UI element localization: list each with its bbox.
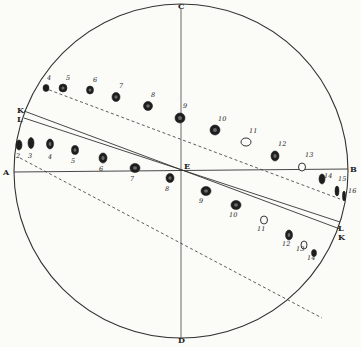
upper-sunspot-15: [335, 186, 339, 196]
lower-sunspot-penumbra-4: [49, 142, 52, 146]
lower-sunspot-11: [261, 216, 268, 224]
lower-sunspot-label: 9: [199, 197, 203, 205]
upper-sunspot-label: 9: [183, 102, 187, 110]
lower-sunspot-penumbra-8: [168, 176, 171, 180]
upper-sunspot-label: 12: [278, 140, 286, 148]
upper-sunspot-label: 4: [46, 74, 51, 82]
upper-sunspot-penumbra-8: [146, 104, 150, 108]
upper-sunspot-penumbra-10: [213, 128, 217, 132]
upper-sunspot-penumbra-7: [114, 95, 117, 99]
lower-sunspot-penumbra-5: [74, 148, 77, 152]
upper-sunspot-label: 15: [338, 175, 346, 183]
point-label-a: A: [2, 167, 10, 177]
lower-sunspot-penumbra-7: [133, 166, 137, 170]
upper-sunspot-penumbra-5: [61, 86, 64, 89]
lower-sunspot-2: [16, 140, 22, 150]
lower-sunspot-penumbra-10: [234, 203, 238, 207]
upper-sunspot-label: 13: [305, 151, 313, 159]
upper-sunspot-11: [241, 138, 251, 146]
upper-sunspot-label: 14: [324, 172, 332, 180]
upper-sunspot-label: 10: [218, 115, 226, 123]
lower-sunspot-label: 7: [130, 175, 135, 183]
upper-sunspot-label: 7: [119, 82, 124, 90]
lower-sunspot-3: [28, 138, 34, 149]
lower-sunspot-label: 12: [282, 240, 290, 248]
lower-sunspot-penumbra-6: [101, 156, 104, 160]
upper-sunspot-penumbra-12: [273, 154, 276, 158]
sunspot-diagram: 45678910111213141516234567891011121314CD…: [0, 0, 361, 347]
point-label-e: E: [184, 161, 190, 171]
upper-track-dashed-line: [44, 88, 340, 199]
lower-sunspot-label: 2: [15, 152, 20, 160]
lower-sunspot-label: 3: [28, 152, 32, 160]
lower-sunspot-label: 4: [47, 153, 52, 161]
upper-sunspot-label: 11: [249, 127, 257, 135]
lower-sunspot-label: 10: [229, 211, 237, 219]
lower-sunspot-label: 8: [165, 185, 169, 193]
lower-sunspot-label: 14: [307, 254, 315, 262]
lower-sunspot-penumbra-12: [288, 233, 291, 237]
upper-sunspot-penumbra-9: [178, 116, 182, 120]
upper-sunspot-4: [43, 85, 49, 92]
lower-sunspot-label: 13: [296, 245, 304, 253]
lower-sunspot-label: 6: [99, 165, 103, 173]
lower-sunspot-label: 5: [71, 157, 75, 165]
point-label-k-right: K: [338, 232, 346, 242]
lower-sunspot-label: 11: [257, 225, 265, 233]
line-l: [24, 118, 340, 222]
lower-sunspot-penumbra-9: [204, 189, 208, 193]
upper-sunspot-label: 5: [66, 74, 70, 82]
point-label-l-left: L: [17, 114, 23, 124]
upper-sunspot-penumbra-6: [89, 88, 92, 91]
point-label-b: B: [350, 164, 357, 174]
upper-sunspot-13: [299, 163, 306, 171]
point-label-c: C: [178, 1, 184, 11]
point-label-d: D: [178, 335, 185, 345]
upper-sunspot-16: [343, 191, 346, 201]
upper-sunspot-label: 16: [348, 187, 356, 195]
upper-sunspot-label: 8: [151, 91, 155, 99]
upper-sunspot-label: 6: [93, 76, 97, 84]
